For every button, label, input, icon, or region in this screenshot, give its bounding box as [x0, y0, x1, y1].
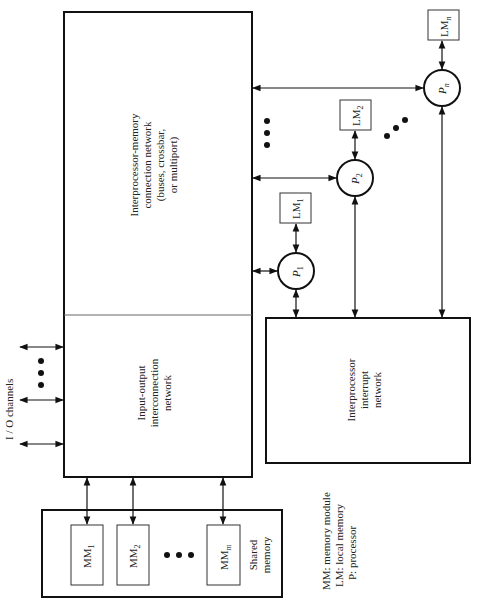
processor-1-group: P1 LM1: [253, 193, 314, 317]
ellipsis-dot: [38, 358, 44, 364]
shared-memory-label: Shared memory: [247, 536, 272, 573]
ellipsis-dot: [393, 125, 399, 131]
svg-text:network: network: [161, 374, 173, 411]
svg-text:interrupt: interrupt: [358, 371, 370, 409]
svg-text:(buses, crossbar,: (buses, crossbar,: [154, 128, 167, 201]
legend-mm: MM: memory module: [320, 492, 332, 590]
ellipsis-dot: [38, 382, 44, 388]
svg-text:Interprocessor-memory: Interprocessor-memory: [128, 113, 140, 217]
svg-text:connection network: connection network: [141, 121, 153, 209]
io-channels-label: I / O channels: [3, 379, 15, 440]
ellipsis-dot: [38, 370, 44, 376]
svg-text:Interprocessor: Interprocessor: [345, 358, 357, 421]
ellipsis-dot: [188, 552, 194, 558]
multiprocessor-diagram: Interprocessor-memory connection network…: [0, 0, 477, 603]
ellipsis-dot: [264, 118, 270, 124]
svg-text:Input-output: Input-output: [135, 366, 147, 421]
ellipsis-dot: [384, 133, 390, 139]
ellipsis-dot: [176, 552, 182, 558]
legend: MM: memory module LM: local memory P: pr…: [320, 492, 358, 590]
ellipsis-dot: [402, 117, 408, 123]
ellipsis-dot: [264, 142, 270, 148]
ellipsis-dot: [264, 130, 270, 136]
legend-p: P: processor: [346, 526, 358, 580]
ellipsis-dot: [164, 552, 170, 558]
processor-2-group: P2 LM2: [253, 100, 373, 317]
svg-text:memory: memory: [260, 536, 272, 573]
legend-lm: LM: local memory: [333, 503, 345, 587]
svg-text:network: network: [371, 371, 383, 408]
io-channels: I / O channels: [3, 347, 63, 444]
svg-text:interconnection: interconnection: [148, 358, 160, 427]
svg-text:or multiport): or multiport): [167, 136, 180, 193]
svg-text:Shared: Shared: [247, 539, 259, 570]
